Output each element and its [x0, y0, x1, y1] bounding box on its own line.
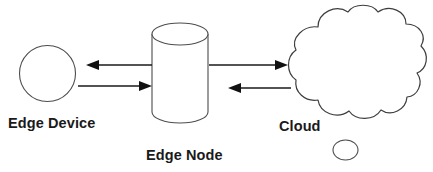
edge-node-node	[152, 23, 208, 123]
arrow-node-to-cloud	[209, 60, 288, 70]
edge-node-cylinder-body-icon	[152, 34, 208, 123]
arrow-node-to-device	[86, 60, 152, 70]
diagram-canvas: Edge Device Edge Node Cloud	[0, 0, 433, 172]
arrow-cloud-to-node	[228, 83, 291, 93]
edge-node-label: Edge Node	[146, 147, 223, 163]
arrow-node-to-cloud-head-icon	[275, 60, 288, 70]
edge-device-circle-icon	[20, 46, 76, 102]
arrow-node-to-device-head-icon	[86, 60, 99, 70]
cloud-node	[289, 5, 427, 160]
arrow-device-to-node-head-icon	[139, 81, 152, 91]
edge-device-label: Edge Device	[8, 115, 95, 131]
edge-node-cylinder-top-icon	[152, 23, 208, 45]
arrow-device-to-node	[78, 81, 152, 91]
cloud-bubble-dot-icon	[333, 140, 358, 160]
edge-device-node	[20, 46, 76, 102]
cloud-shape-icon	[289, 5, 427, 118]
cloud-label: Cloud	[279, 118, 321, 134]
edge-computing-diagram: Edge Device Edge Node Cloud	[0, 0, 433, 172]
arrow-cloud-to-node-head-icon	[228, 83, 241, 93]
